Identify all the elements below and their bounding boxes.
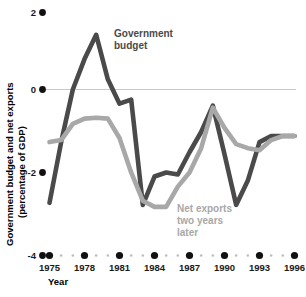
x-axis-major-dot xyxy=(46,252,53,259)
x-axis-minor-dot xyxy=(212,254,215,257)
budget-net-exports-line-chart: Government budget and net exports (perce… xyxy=(0,0,306,297)
y-tick-dot-minus2 xyxy=(39,169,46,176)
x-tick-label-1975: 1975 xyxy=(39,262,61,273)
x-axis-dot-rail xyxy=(46,252,298,259)
x-axis-major-dot xyxy=(81,252,88,259)
annotation-net-exports-line2: two years xyxy=(177,215,224,226)
x-tick-label-1990: 1990 xyxy=(214,262,235,273)
annotation-net-exports-line3: later xyxy=(177,227,198,238)
x-axis-minor-dot xyxy=(142,254,145,257)
annotation-government-budget-line2: budget xyxy=(114,40,148,51)
x-axis-minor-dot xyxy=(235,254,238,257)
y-tick-label-2: 2 xyxy=(31,7,36,18)
x-axis-minor-dot xyxy=(177,254,180,257)
x-axis-minor-dot xyxy=(95,254,98,257)
y-axis-ticks: 2 0 -2 -4 xyxy=(28,7,46,261)
x-axis-minor-dot xyxy=(282,254,285,257)
x-axis-major-dot xyxy=(116,252,123,259)
x-axis-minor-dot xyxy=(107,254,110,257)
x-axis-ticks: 19751978198119841987199019931996 xyxy=(39,262,305,273)
x-tick-label-1996: 1996 xyxy=(284,262,305,273)
y-tick-label-minus2: -2 xyxy=(28,167,36,178)
x-tick-label-1984: 1984 xyxy=(144,262,166,273)
y-axis-title-line1: Government budget and net exports xyxy=(4,82,15,246)
x-axis-major-dot xyxy=(186,252,193,259)
y-tick-dot-minus4 xyxy=(39,252,46,259)
y-tick-label-0: 0 xyxy=(31,84,36,95)
x-tick-label-1993: 1993 xyxy=(249,262,270,273)
annotation-net-exports-line1: Net exports xyxy=(177,203,232,214)
x-tick-label-1978: 1978 xyxy=(74,262,95,273)
annotation-government-budget: Government budget xyxy=(114,28,174,51)
x-tick-label-1981: 1981 xyxy=(109,262,131,273)
x-axis-major-dot xyxy=(291,252,298,259)
x-tick-label-1987: 1987 xyxy=(179,262,200,273)
y-axis-title: Government budget and net exports (perce… xyxy=(4,82,27,246)
x-axis-major-dot xyxy=(256,252,263,259)
chart-container: Government budget and net exports (perce… xyxy=(0,0,306,297)
x-axis-minor-dot xyxy=(165,254,168,257)
x-axis-minor-dot xyxy=(130,254,133,257)
x-axis-minor-dot xyxy=(270,254,273,257)
y-tick-dot-2 xyxy=(39,9,46,16)
x-axis-minor-dot xyxy=(72,254,75,257)
annotation-net-exports: Net exports two years later xyxy=(177,203,232,238)
line-net-exports-two-years-later xyxy=(50,108,295,207)
x-axis-major-dot xyxy=(221,252,228,259)
x-axis-major-dot xyxy=(151,252,158,259)
x-axis-minor-dot xyxy=(60,254,63,257)
y-tick-dot-0 xyxy=(39,86,46,93)
y-tick-label-minus4: -4 xyxy=(28,250,37,261)
y-axis-title-line2: (percentage of GDP) xyxy=(16,126,27,218)
x-axis-minor-dot xyxy=(200,254,203,257)
annotation-government-budget-line1: Government xyxy=(114,28,174,39)
x-axis-minor-dot xyxy=(247,254,250,257)
x-axis-title: Year xyxy=(48,276,68,287)
